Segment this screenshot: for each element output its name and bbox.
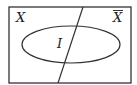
venn-diagram: X X I bbox=[0, 0, 137, 85]
label-i: I bbox=[56, 36, 63, 51]
label-x: X bbox=[15, 10, 26, 25]
label-x-complement: X bbox=[112, 10, 123, 25]
